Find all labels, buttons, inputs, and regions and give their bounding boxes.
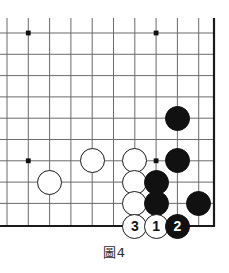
- move-number-label: 2: [166, 215, 189, 238]
- black-stone[interactable]: [144, 191, 169, 216]
- white-stone[interactable]: [37, 170, 62, 195]
- black-stone[interactable]: [186, 191, 211, 216]
- move-stone-2[interactable]: 2: [165, 214, 190, 239]
- figure-caption: 圖4: [0, 236, 229, 266]
- star-point-upper-left: [26, 31, 31, 36]
- figure-caption-text: 圖4: [103, 242, 125, 261]
- go-board[interactable]: 3 1 2: [0, 0, 229, 236]
- star-point-left-side: [26, 158, 31, 163]
- star-point-lower-right: [154, 158, 159, 163]
- white-stone[interactable]: [80, 148, 105, 173]
- go-diagram-figure: 3 1 2 圖4: [0, 0, 229, 273]
- black-stone[interactable]: [165, 106, 190, 131]
- move-number-label: 3: [123, 215, 146, 238]
- star-point-upper-right: [154, 31, 159, 36]
